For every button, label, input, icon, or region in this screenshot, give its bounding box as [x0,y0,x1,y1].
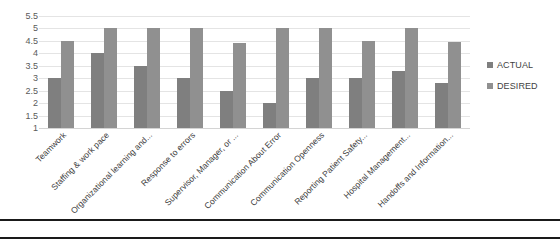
bar-actual[interactable] [435,83,448,128]
legend-item[interactable]: ACTUAL [487,57,557,73]
y-axis-tick-label: 1.5 [8,111,38,120]
x-axis-label: Communication About Error [202,130,283,211]
bar-actual[interactable] [392,71,405,128]
y-axis-tick-label: 3 [8,74,38,83]
figure-bottom-rule [0,219,560,221]
y-axis-tick-label: 2.5 [8,86,38,95]
bars-layer [39,16,470,128]
legend-item[interactable]: DESIRED [487,78,557,94]
bar-group [427,16,470,128]
bar-desired[interactable] [319,28,332,128]
x-axis-label: Reporting Patient Safety... [293,130,370,207]
x-axis-label: Communication Openness [248,130,326,208]
y-axis-tick-label: 4.5 [8,36,38,45]
chart-screenshot: 11.522.533.544.555.5 TeamworkStaffing & … [0,0,560,239]
bar-group [82,16,125,128]
bar-chart: 11.522.533.544.555.5 TeamworkStaffing & … [0,0,560,219]
bar-group [125,16,168,128]
bar-desired[interactable] [276,28,289,128]
bar-group [39,16,82,128]
bar-actual[interactable] [263,103,276,128]
bar-actual[interactable] [177,78,190,128]
bar-group [384,16,427,128]
y-axis-tick-label: 5 [8,24,38,33]
x-axis-label: Supervisor, Manager, or ... [162,130,240,208]
x-axis-label: Handoffs and Information... [376,130,455,209]
y-axis-tick-label: 3.5 [8,61,38,70]
chart-legend: ACTUALDESIRED [487,57,557,99]
bar-actual[interactable] [349,78,362,128]
bar-desired[interactable] [190,28,203,128]
bar-group [254,16,297,128]
bar-actual[interactable] [91,53,104,128]
page-bottom-rule [0,237,560,239]
y-axis: 11.522.533.544.555.5 [8,16,38,128]
x-axis-label: Teamwork [33,130,67,164]
bar-group [168,16,211,128]
bar-desired[interactable] [147,28,160,128]
bar-actual[interactable] [134,66,147,128]
bar-group [211,16,254,128]
x-axis-label: Organizational learning and... [68,130,154,216]
bar-desired[interactable] [362,41,375,128]
bar-desired[interactable] [448,42,461,128]
bar-actual[interactable] [220,91,233,128]
y-axis-tick-label: 1 [8,124,38,133]
x-axis-labels: TeamworkStaffing & work paceOrganization… [39,130,470,219]
bar-group [341,16,384,128]
bar-desired[interactable] [233,43,246,128]
legend-label: ACTUAL [497,60,533,70]
bar-desired[interactable] [104,28,117,128]
legend-label: DESIRED [497,81,538,91]
bar-desired[interactable] [61,41,74,128]
bar-actual[interactable] [306,78,319,128]
bar-group [298,16,341,128]
plot-area [39,16,470,128]
y-axis-tick-label: 2 [8,99,38,108]
y-axis-tick-label: 5.5 [8,12,38,21]
bar-actual[interactable] [48,78,61,128]
legend-swatch-icon [487,62,493,68]
bar-desired[interactable] [405,28,418,128]
y-axis-tick-label: 4 [8,49,38,58]
legend-swatch-icon [487,83,493,89]
